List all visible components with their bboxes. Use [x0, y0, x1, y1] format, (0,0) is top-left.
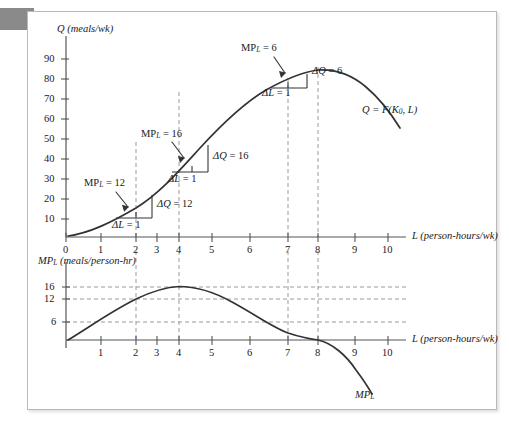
top-xtick-0: 0 — [63, 245, 68, 256]
annotation-delta-L-1-b: ΔL = 1 — [168, 174, 196, 185]
top-ytick-40: 40 — [44, 154, 55, 165]
top-ytick-30: 30 — [44, 174, 55, 185]
bottom-xtick-6: 6 — [247, 348, 252, 359]
top-xtick-8: 8 — [315, 245, 320, 256]
total-product-curve-label: Q = F(K0, L) — [362, 105, 417, 116]
top-xtick-9: 9 — [352, 245, 357, 256]
bottom-xtick-1: 1 — [98, 348, 103, 359]
bottom-xtick-5: 5 — [209, 348, 214, 359]
annotation-mpl-12: MPL = 12 — [84, 178, 125, 189]
bottom-xtick-10: 10 — [382, 348, 393, 359]
bottom-xtick-4: 4 — [176, 348, 181, 359]
top-xtick-1: 1 — [98, 245, 103, 256]
bottom-y-axis-title: MPL (meals/person-hr) — [38, 256, 136, 267]
bottom-x-axis-title: L (person-hours/wk) — [412, 334, 498, 345]
top-xtick-10: 10 — [382, 245, 393, 256]
top-xtick-3: 3 — [154, 245, 159, 256]
bottom-ytick-16: 16 — [44, 282, 55, 293]
top-xtick-5: 5 — [209, 245, 214, 256]
bottom-ytick-6: 6 — [51, 317, 56, 328]
top-xtick-7: 7 — [285, 245, 290, 256]
top-xtick-2: 2 — [133, 245, 138, 256]
annotation-delta-L-1-c: ΔL = 1 — [262, 88, 290, 99]
top-ytick-90: 90 — [44, 54, 55, 65]
annotation-delta-Q-16: ΔQ = 16 — [213, 151, 248, 162]
top-ytick-20: 20 — [44, 194, 55, 205]
bottom-xtick-3: 3 — [154, 348, 159, 359]
bottom-xtick-9: 9 — [352, 348, 357, 359]
top-ytick-80: 80 — [44, 74, 55, 85]
top-ytick-10: 10 — [44, 214, 55, 225]
annotation-delta-L-1-a: ΔL ΔL = 1= 1 — [112, 220, 140, 231]
annotation-delta-Q-6: ΔQ = 6 — [312, 66, 342, 77]
top-ytick-50: 50 — [44, 134, 55, 145]
marginal-product-curve-label: MPL — [355, 390, 374, 401]
total-product-chart — [61, 36, 406, 242]
bottom-xtick-8: 8 — [315, 348, 320, 359]
bottom-xtick-2: 2 — [133, 348, 138, 359]
bottom-dashed-verticals — [136, 251, 318, 340]
marginal-product-chart — [62, 251, 406, 394]
top-y-axis-title: Q (meals/wk) — [57, 24, 113, 35]
economics-production-figure — [0, 0, 509, 427]
top-x-axis-title: L (person-hours/wk) — [412, 231, 498, 242]
slope-triangle-L7 — [271, 74, 307, 88]
annotation-mpl-6: MPL = 6 — [241, 43, 277, 54]
annotation-delta-Q-12: ΔQ = 12 — [157, 199, 192, 210]
top-xtick-4: 4 — [176, 245, 181, 256]
annotation-mpl-16: MPL = 16 — [141, 129, 182, 140]
bottom-ytick-12: 12 — [44, 294, 55, 305]
bottom-xtick-7: 7 — [285, 348, 290, 359]
top-ytick-70: 70 — [44, 94, 55, 105]
top-xtick-6: 6 — [247, 245, 252, 256]
top-ytick-60: 60 — [44, 114, 55, 125]
top-y-ticks — [61, 59, 69, 219]
